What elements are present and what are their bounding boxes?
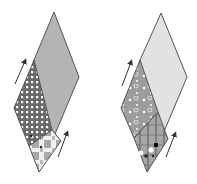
right-diamond xyxy=(121,13,187,172)
right-upper-arrow-icon xyxy=(122,62,131,86)
quilt-diamond-diagram xyxy=(0,0,197,184)
left-lower-arrow-icon xyxy=(58,133,67,157)
left-upper-arrow-icon xyxy=(15,61,25,84)
left-plaid-dot xyxy=(40,146,42,148)
left-diamond xyxy=(14,12,79,172)
left-plaid-dot xyxy=(30,135,32,137)
